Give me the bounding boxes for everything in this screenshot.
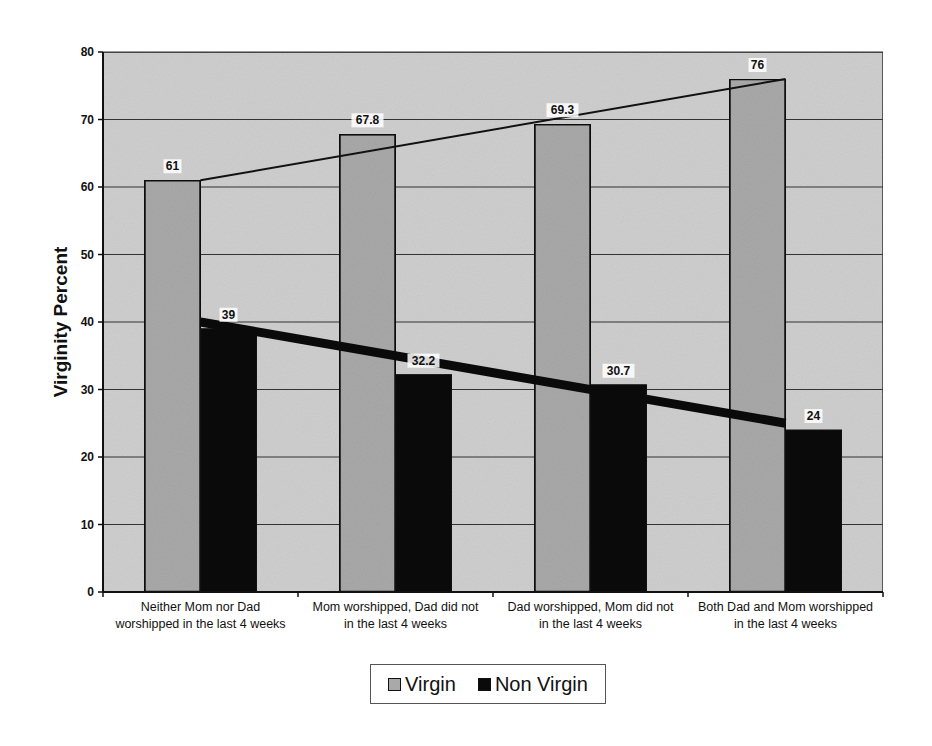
y-tick-label: 80 <box>81 45 95 59</box>
y-tick-label: 40 <box>81 315 95 329</box>
bar-virgin <box>730 79 786 592</box>
legend-label-non-virgin: Non Virgin <box>495 673 588 696</box>
y-tick-label: 0 <box>87 585 94 599</box>
data-label: 67.8 <box>356 113 380 127</box>
y-tick-label: 10 <box>81 518 95 532</box>
data-label: 24 <box>807 409 821 423</box>
data-label: 30.7 <box>607 364 631 378</box>
y-axis-ticks: 01020304050607080 <box>81 45 103 599</box>
bar-virgin <box>535 124 591 592</box>
y-tick-label: 70 <box>81 113 95 127</box>
legend-item-virgin: Virgin <box>388 673 456 696</box>
x-category-label: in the last 4 weeks <box>344 617 447 631</box>
black-square-icon <box>478 678 491 691</box>
x-category-label: Neither Mom nor Dad <box>141 600 261 614</box>
bar-virgin <box>145 180 201 592</box>
x-category-label: worshipped in the last 4 weeks <box>114 617 285 631</box>
x-category-label: in the last 4 weeks <box>539 617 642 631</box>
bar-non-virgin <box>786 430 842 592</box>
data-label: 32.2 <box>412 354 436 368</box>
light-gray-square-icon <box>388 678 401 691</box>
x-category-label: Mom worshipped, Dad did not <box>312 600 479 614</box>
legend-item-non-virgin: Non Virgin <box>478 673 588 696</box>
data-label: 76 <box>751 58 765 72</box>
x-axis-labels: Neither Mom nor Dadworshipped in the las… <box>103 592 883 631</box>
bar-non-virgin <box>201 329 257 592</box>
bar-non-virgin <box>396 375 452 592</box>
bar-chart: 6167.869.3763932.230.724 010203040506070… <box>0 0 932 746</box>
data-label: 69.3 <box>551 103 575 117</box>
y-axis-title: Virginity Percent <box>50 246 71 397</box>
x-category-label: Dad worshipped, Mom did not <box>507 600 674 614</box>
legend: Virgin Non Virgin <box>370 664 606 704</box>
x-category-label: Both Dad and Mom worshipped <box>698 600 873 614</box>
y-tick-label: 20 <box>81 450 95 464</box>
legend-label-virgin: Virgin <box>405 673 456 696</box>
data-label: 61 <box>166 159 180 173</box>
y-tick-label: 50 <box>81 248 95 262</box>
data-label: 39 <box>222 308 236 322</box>
bar-non-virgin <box>591 385 647 592</box>
bar-virgin <box>340 134 396 592</box>
x-category-label: in the last 4 weeks <box>734 617 837 631</box>
y-tick-label: 60 <box>81 180 95 194</box>
y-tick-label: 30 <box>81 383 95 397</box>
